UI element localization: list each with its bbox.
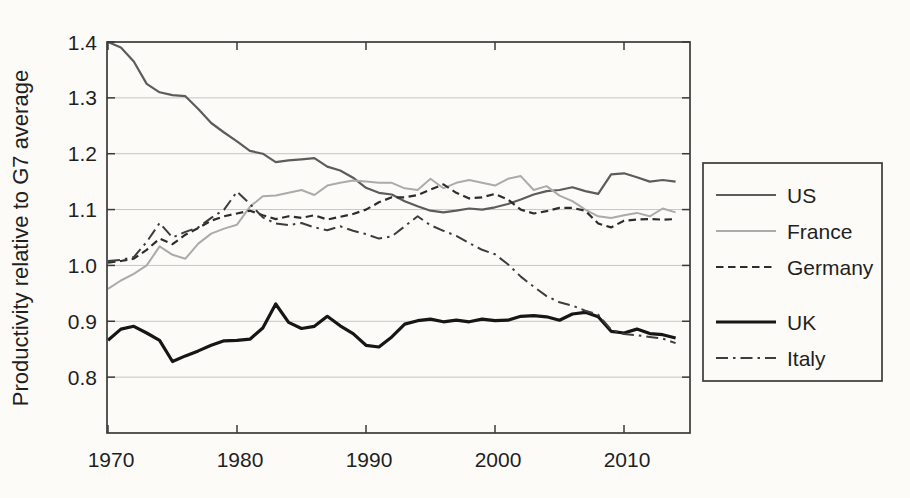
legend-label-germany: Germany (787, 256, 874, 279)
y-axis-title: Productivity relative to G7 average (8, 70, 33, 406)
grid (107, 98, 690, 377)
y-tick-label-1.1: 1.1 (68, 198, 97, 221)
legend-label-us: US (787, 184, 816, 207)
y-tick-label-1: 1.0 (68, 254, 97, 277)
chart-canvas: Productivity relative to G7 average 0.80… (0, 0, 910, 498)
legend: USFranceGermanyUKItaly (703, 163, 882, 381)
y-tick-label-0.8: 0.8 (68, 366, 97, 389)
y-tick-label-1.2: 1.2 (68, 142, 97, 165)
chart-root: Productivity relative to G7 average 0.80… (8, 31, 882, 472)
legend-label-uk: UK (787, 311, 816, 334)
y-tick-label-1.4: 1.4 (68, 31, 98, 54)
x-tick-label-1990: 1990 (346, 448, 393, 471)
series-line-us (108, 42, 676, 212)
x-tick-label-2010: 2010 (604, 448, 651, 471)
x-tick-label-1980: 1980 (217, 448, 264, 471)
axis-ticks (107, 42, 690, 433)
axis-frame (107, 42, 690, 433)
x-tick-label-2000: 2000 (475, 448, 522, 471)
y-tick-label-1.3: 1.3 (68, 86, 97, 109)
productivity-chart-figure: Productivity relative to G7 average 0.80… (0, 0, 910, 498)
legend-label-france: France (787, 220, 852, 243)
series-lines (108, 42, 676, 362)
legend-label-italy: Italy (787, 347, 826, 370)
y-tick-label-0.9: 0.9 (68, 310, 97, 333)
x-tick-label-1970: 1970 (88, 448, 135, 471)
tick-labels: 0.80.91.01.11.21.31.41970198019902000201… (68, 31, 651, 472)
